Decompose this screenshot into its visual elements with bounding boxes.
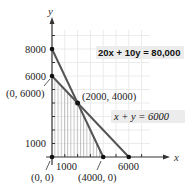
leader-4000-0 — [97, 161, 101, 170]
label-4000-0: (4000, 0) — [78, 172, 117, 184]
point-6000-0 — [127, 155, 132, 160]
y-tick-6000: 6000 — [25, 71, 46, 82]
chart: y x 8000 6000 1000 1000 6000 (0, 0) (400… — [0, 0, 189, 188]
point-0-6000 — [50, 74, 55, 79]
eq2-label: x + y = 6000 — [113, 111, 170, 122]
label-0-6000: (0, 6000) — [6, 88, 45, 100]
label-origin: (0, 0) — [31, 172, 54, 184]
y-tick-8000: 8000 — [25, 44, 46, 55]
x-tick-1000: 1000 — [56, 161, 77, 172]
point-origin — [50, 155, 55, 160]
x-axis-label: x — [173, 151, 179, 163]
eq1-label: 20x + 10y = 80,000 — [98, 47, 180, 58]
point-2000-4000 — [75, 101, 80, 106]
label-2000-4000: (2000, 4000) — [82, 91, 137, 103]
y-axis-label: y — [47, 5, 53, 17]
x-tick-6000: 6000 — [118, 161, 139, 172]
point-4000-0 — [101, 155, 106, 160]
point-0-8000 — [50, 47, 55, 52]
y-tick-1000: 1000 — [25, 138, 46, 149]
leader-origin — [46, 161, 50, 170]
